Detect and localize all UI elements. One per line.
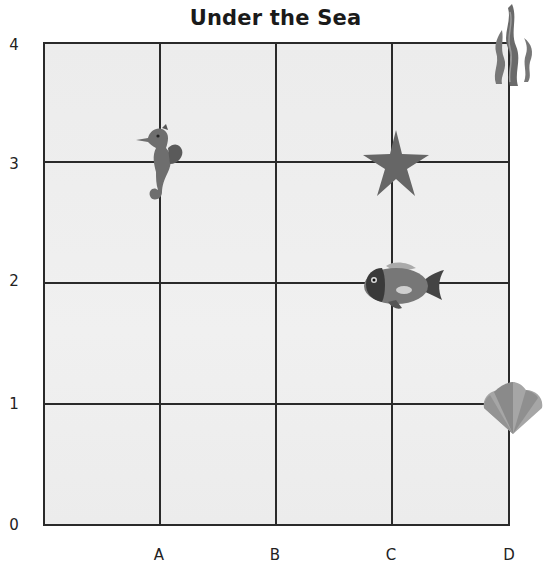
grid-line-b (275, 42, 277, 526)
fish-icon (358, 260, 446, 312)
y-label-2: 2 (7, 272, 21, 290)
grid-line-a (159, 42, 161, 526)
x-label-a: A (149, 546, 169, 564)
y-label-3: 3 (7, 155, 21, 173)
x-label-c: C (381, 546, 401, 564)
x-label-b: B (265, 546, 285, 564)
y-label-1: 1 (7, 395, 21, 413)
chart-title: Under the Sea (0, 6, 551, 30)
grid-line-1 (43, 403, 510, 405)
starfish-icon (362, 128, 430, 198)
seaweed-icon (488, 2, 538, 88)
grid-line-3 (43, 161, 510, 163)
x-label-d: D (499, 546, 519, 564)
y-label-4: 4 (7, 36, 21, 54)
y-label-0: 0 (7, 516, 21, 534)
seahorse-icon (134, 124, 188, 204)
shell-icon (480, 380, 546, 436)
